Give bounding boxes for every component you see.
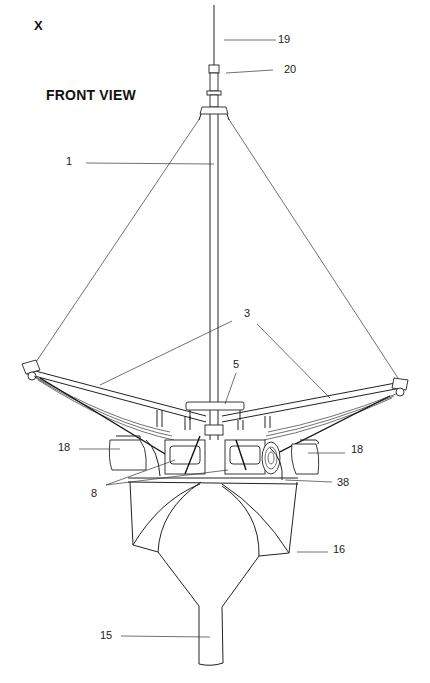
- callout-3: 3: [244, 307, 250, 319]
- stay-wire-left: [36, 118, 200, 362]
- float-pod-left: [109, 436, 160, 476]
- antenna-base: [199, 65, 229, 120]
- equipment-box-right: [225, 440, 280, 474]
- mast: [205, 114, 223, 440]
- callout-1: 1: [66, 155, 72, 167]
- callout-16: 16: [333, 543, 345, 555]
- ballast-tube: [158, 552, 259, 665]
- callout-18-right: 18: [351, 443, 363, 455]
- leader-lines: [79, 40, 345, 637]
- callout-38: 38: [337, 476, 349, 488]
- stay-wire-right: [228, 118, 398, 378]
- hub-ring: [186, 402, 244, 420]
- hull-skirt: [130, 482, 297, 556]
- callout-20: 20: [284, 63, 296, 75]
- callout-5: 5: [233, 358, 239, 370]
- front-view-drawing: [0, 0, 430, 683]
- callout-15: 15: [100, 629, 112, 641]
- callout-19: 19: [278, 33, 290, 45]
- callout-18-left: 18: [58, 441, 70, 453]
- equipment-box-left: [165, 436, 205, 474]
- callout-8: 8: [91, 487, 97, 499]
